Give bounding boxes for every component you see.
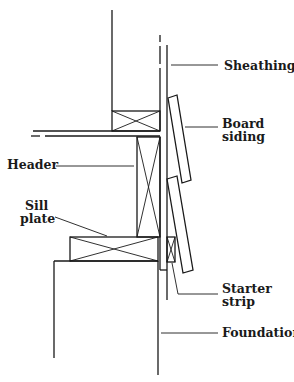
label-sill-plate-line2: plate <box>20 211 55 226</box>
label-starter-strip-line2: strip <box>222 294 255 309</box>
label-header: Header <box>7 157 59 172</box>
label-foundation: Foundation <box>222 325 294 340</box>
board-siding-lower <box>167 176 193 273</box>
board-siding-upper <box>168 95 191 183</box>
sill-plate-block <box>70 237 158 261</box>
floor-joist <box>31 131 160 136</box>
label-sheathing: Sheathing <box>224 58 294 73</box>
label-board-siding-line2: siding <box>222 129 265 144</box>
siding-diagram: Sheathing Board siding Header Sill plate… <box>0 0 294 382</box>
top-plate <box>112 111 160 131</box>
leader-sill-plate <box>55 217 107 236</box>
leader-starter-strip <box>172 263 218 294</box>
header-block <box>137 137 160 237</box>
starter-strip-block <box>167 237 175 262</box>
foundation-wall <box>54 261 158 375</box>
